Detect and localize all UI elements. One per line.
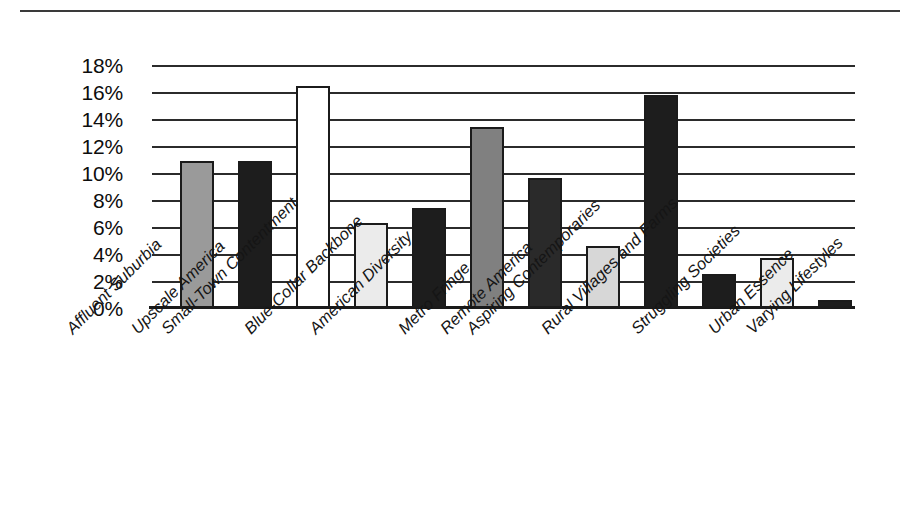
x-label-small-town-contentment: Small-Town Contentment bbox=[158, 194, 301, 337]
bar-chart-figure: 18% 16% 14% 12% 10% 8% 6% 4% 2% 0% bbox=[0, 0, 918, 517]
x-axis-category-labels: Affluent Suburbia Upscale America Small-… bbox=[0, 0, 918, 517]
x-label-aspiring-contemporaries: Aspiring Contemporaries bbox=[463, 197, 603, 337]
